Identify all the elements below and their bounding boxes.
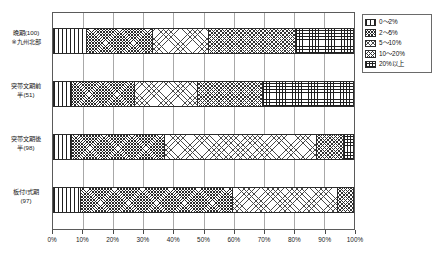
legend-item[interactable]: 5〜10% <box>365 38 429 49</box>
category-label-2: 突帯文期後 半(98) <box>1 135 51 153</box>
bar-segment <box>153 29 210 53</box>
bar-segment <box>209 29 296 53</box>
x-axis-label: 30% <box>130 236 156 243</box>
legend: 0〜2%2〜5%5〜10%10〜20%20%以上 <box>362 14 432 73</box>
x-axis-tick <box>52 230 53 234</box>
legend-label: 5〜10% <box>379 40 401 46</box>
x-axis-label: 40% <box>160 236 186 243</box>
bar-segment <box>296 29 353 53</box>
bar-segment <box>233 188 338 212</box>
legend-item[interactable]: 0〜2% <box>365 17 429 28</box>
x-axis-label: 50% <box>191 236 217 243</box>
x-axis-tick <box>204 230 205 234</box>
x-axis-label: 70% <box>251 236 277 243</box>
legend-swatch <box>365 40 376 48</box>
bar-segment <box>263 82 353 106</box>
bar-segment <box>54 188 81 212</box>
legend-item[interactable]: 10〜20% <box>365 49 429 60</box>
category-label-1: 突帯文期前 半(51) <box>1 82 51 100</box>
x-axis-label: 60% <box>221 236 247 243</box>
bar-segment <box>54 135 72 159</box>
x-axis-label: 0% <box>39 236 65 243</box>
x-axis-tick <box>234 230 235 234</box>
bar-segment <box>81 188 233 212</box>
table-row <box>53 28 354 54</box>
category-label-3: 板付I式期 (97) <box>1 188 51 206</box>
legend-label: 20%以上 <box>379 61 404 67</box>
stacked-bar-chart: 晩期(100) ※九州北部 突帯文期前 半(51) 突帯文期後 半(98) 板付… <box>0 0 434 260</box>
table-row <box>53 134 354 160</box>
legend-item[interactable]: 2〜5% <box>365 28 429 39</box>
table-row <box>53 187 354 213</box>
legend-item[interactable]: 20%以上 <box>365 59 429 70</box>
bar-segment <box>54 82 72 106</box>
bar-segment <box>198 82 264 106</box>
plot-area <box>52 12 355 230</box>
bar-segment <box>72 135 165 159</box>
legend-label: 2〜5% <box>379 30 398 36</box>
x-axis-tick <box>82 230 83 234</box>
legend-swatch <box>365 61 376 69</box>
legend-label: 0〜2% <box>379 19 398 25</box>
table-row <box>53 81 354 107</box>
x-axis-tick <box>113 230 114 234</box>
x-axis-label: 90% <box>312 236 338 243</box>
x-axis-tick <box>325 230 326 234</box>
legend-swatch <box>365 19 376 27</box>
x-axis-label: 80% <box>281 236 307 243</box>
x-axis-tick <box>294 230 295 234</box>
bar-segment <box>338 188 353 212</box>
bar-segment <box>344 135 353 159</box>
bar-segment <box>54 29 87 53</box>
x-axis-tick <box>143 230 144 234</box>
bar-segment <box>72 82 135 106</box>
bar-segment <box>87 29 153 53</box>
x-axis-label: 20% <box>100 236 126 243</box>
x-axis-tick <box>264 230 265 234</box>
x-axis-label: 10% <box>69 236 95 243</box>
bar-segment <box>317 135 344 159</box>
bar-segment <box>135 82 198 106</box>
x-axis-tick <box>173 230 174 234</box>
bar-segment <box>165 135 317 159</box>
legend-label: 10〜20% <box>379 51 405 57</box>
category-label-0: 晩期(100) ※九州北部 <box>1 29 51 47</box>
x-axis-tick <box>355 230 356 234</box>
x-axis-label: 100% <box>342 236 368 243</box>
legend-swatch <box>365 50 376 58</box>
legend-swatch <box>365 29 376 37</box>
